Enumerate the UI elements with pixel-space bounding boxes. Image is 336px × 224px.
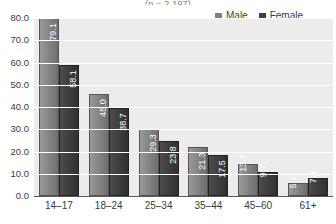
- gridline: [34, 40, 333, 41]
- y-axis-tick-label: 60.0: [11, 58, 30, 68]
- chart-title-text: (n = 2,197): [145, 0, 191, 5]
- bar-value-label: 9.7: [259, 165, 268, 178]
- bar-value-label: 38.7: [119, 113, 128, 131]
- x-axis-tick-label: 25–34: [134, 200, 184, 212]
- bar-value-label: 21.3: [198, 152, 207, 170]
- bar-chart: (n = 2,197) Male Female 0.010.020.030.04…: [0, 0, 336, 224]
- gridline: [34, 63, 333, 64]
- bar-female[interactable]: 9.7: [258, 172, 278, 196]
- bar-female[interactable]: 23.8: [159, 141, 179, 196]
- bar-female[interactable]: 17.5: [208, 155, 228, 196]
- bar-value-label: 23.8: [169, 146, 178, 164]
- y-axis-tick-label: 30.0: [11, 125, 30, 135]
- bar-male[interactable]: 5.1: [288, 183, 308, 196]
- gridline: [34, 152, 333, 153]
- y-axis-tick-label: 80.0: [11, 13, 30, 23]
- y-axis-tick-label: 0.0: [16, 191, 29, 201]
- bar-value-label: 79.1: [49, 23, 58, 41]
- x-axis-tick-label: 14–17: [34, 200, 84, 212]
- bar-male[interactable]: 29.3: [139, 129, 159, 196]
- bar-value-label: 29.3: [149, 134, 158, 152]
- y-axis-tick-label: 70.0: [11, 36, 30, 46]
- plot-area: 79.158.145.038.729.323.821.317.513.79.75…: [34, 18, 333, 197]
- gridline: [34, 85, 333, 86]
- y-axis: 0.010.020.030.040.050.060.070.080.0: [0, 0, 33, 224]
- y-axis-tick-label: 50.0: [11, 80, 30, 90]
- x-axis-tick-label: 35–44: [183, 200, 233, 212]
- x-axis-tick-label: 45–60: [233, 200, 283, 212]
- y-axis-tick-label: 40.0: [11, 102, 30, 112]
- x-axis-tick-label: 61+: [283, 200, 333, 212]
- chart-title-clipped: (n = 2,197): [0, 0, 336, 5]
- gridline: [34, 107, 333, 108]
- bar-male[interactable]: 21.3: [188, 147, 208, 196]
- bar-value-label: 7.4: [309, 170, 318, 183]
- y-axis-tick-label: 10.0: [11, 169, 30, 179]
- x-axis-tick-label: 18–24: [84, 200, 134, 212]
- bar-male[interactable]: 13.7: [238, 164, 258, 196]
- bar-value-label: 5.1: [289, 175, 298, 188]
- bar-female[interactable]: 7.4: [308, 178, 328, 196]
- gridline: [34, 174, 333, 175]
- bar-value-label: 17.5: [218, 160, 227, 178]
- bar-male[interactable]: 45.0: [89, 94, 109, 196]
- x-axis: 14–1718–2425–3435–4445–6061+: [34, 200, 333, 212]
- bar-value-label: 13.7: [239, 154, 248, 172]
- y-axis-tick-label: 20.0: [11, 147, 30, 157]
- gridline: [34, 129, 333, 130]
- gridline: [34, 18, 333, 19]
